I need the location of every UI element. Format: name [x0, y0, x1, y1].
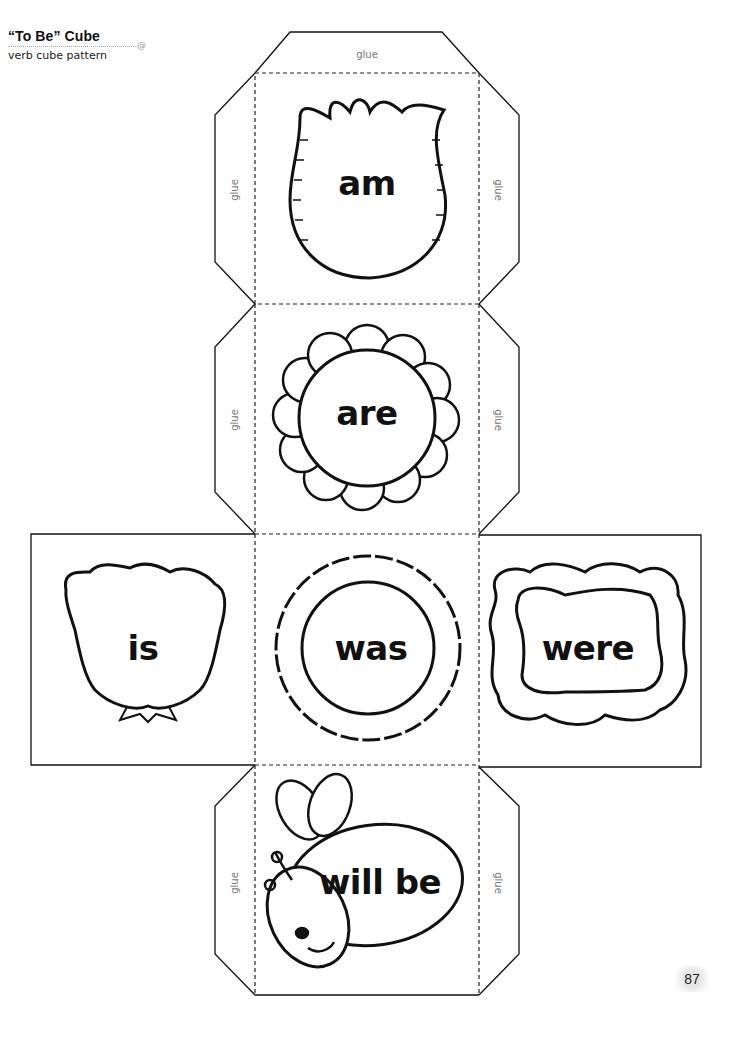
- face-were-word: were: [542, 628, 634, 668]
- face-are-word: are: [336, 393, 397, 433]
- are-left-glue-label: glue: [229, 409, 240, 431]
- face-willbe-word: will be: [319, 862, 441, 902]
- top-flap-glue-label: glue: [356, 49, 378, 60]
- am-left-glue-label: glue: [229, 179, 240, 201]
- willbe-right-glue-label: glue: [493, 872, 504, 894]
- face-am-word: am: [338, 163, 395, 203]
- am-right-glue-label: glue: [493, 179, 504, 201]
- face-is-word: is: [128, 628, 159, 668]
- face-was-word: was: [334, 628, 407, 668]
- willbe-left-glue-label: glue: [229, 872, 240, 894]
- page-number: 87: [676, 966, 708, 992]
- are-right-glue-label: glue: [493, 409, 504, 431]
